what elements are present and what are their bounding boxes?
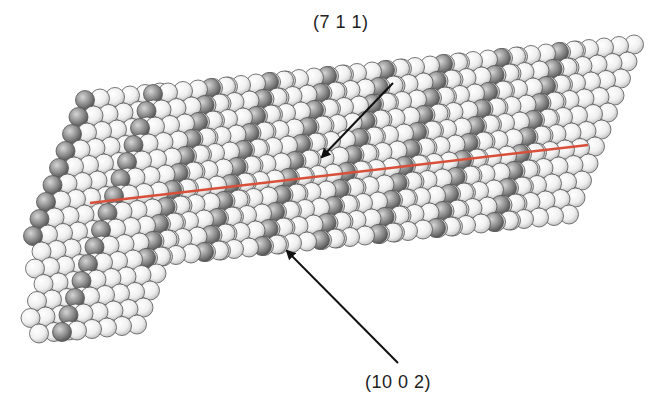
crystal-surface-diagram: (7 1 1) (10 0 2) [0,0,667,417]
label-711: (7 1 1) [313,12,369,33]
terrace-atom [30,324,49,343]
atom-model-canvas [0,0,667,417]
step-edge-atom [53,323,72,342]
label-1002: (10 0 2) [365,372,431,393]
arrow-1002-icon [287,251,398,363]
